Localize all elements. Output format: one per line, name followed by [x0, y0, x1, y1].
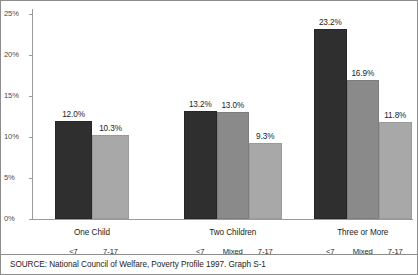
bar-value-label: 9.3% [256, 132, 274, 141]
bar-1-0 [184, 111, 217, 219]
bar-2-1 [347, 80, 380, 219]
bar-value-label: 13.0% [221, 101, 244, 110]
bar-value-label: 23.2% [319, 18, 342, 27]
bar-1-1 [217, 112, 250, 219]
plot-area: 25%20%15%10%5%0% 12.0%10.3%13.2%13.0%9.3… [1, 1, 418, 221]
bar-value-label: 11.8% [384, 111, 406, 120]
category-label: Two Children [209, 228, 256, 237]
bar-1-2 [249, 143, 282, 219]
category-label: Three or More [337, 228, 388, 237]
bar-2-0 [314, 29, 347, 219]
bar-value-label: 10.3% [99, 124, 122, 133]
bar-2-2 [379, 122, 412, 219]
bar-0-0 [55, 121, 92, 219]
bar-0-1 [92, 135, 129, 219]
bar-value-label: 12.0% [62, 110, 85, 119]
category-label: One Child [74, 228, 110, 237]
bar-value-label: 13.2% [189, 100, 212, 109]
bar-value-label: 16.9% [351, 69, 374, 78]
chart-footer: SOURCE: National Council of Welfare, Pov… [1, 254, 417, 274]
chart-figure: 25%20%15%10%5%0% 12.0%10.3%13.2%13.0%9.3… [0, 0, 418, 275]
source-note: SOURCE: National Council of Welfare, Pov… [10, 260, 266, 269]
